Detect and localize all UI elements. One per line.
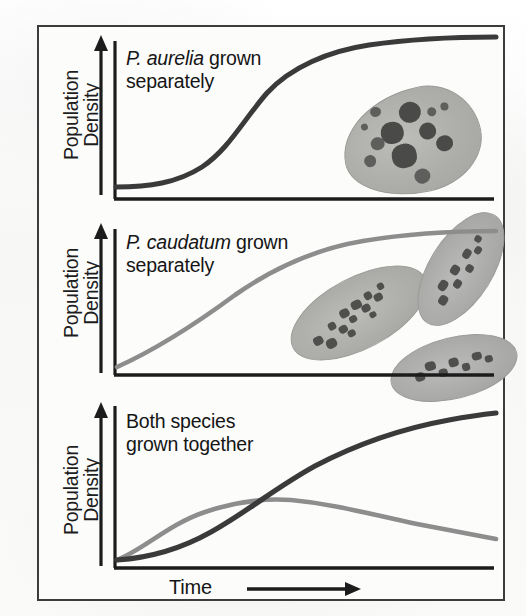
x-axis-label: Time: [169, 576, 212, 599]
curve-p-aurelia-alone: [116, 37, 496, 187]
y-axis-arrow-head: [94, 35, 108, 51]
panel-p-aurelia: Population Density P. aurelia grown sepa…: [39, 27, 507, 215]
panel-2-plot: [39, 215, 507, 390]
panel-3-plot: [39, 390, 507, 603]
figure-border: Population Density P. aurelia grown sepa…: [37, 25, 505, 601]
x-axis-arrow: [247, 582, 361, 596]
curve-p-aurelia-together: [117, 413, 496, 560]
y-axis-arrow-head: [94, 402, 108, 418]
panel-1-plot: [39, 27, 507, 215]
panel-both-species: Population Density Both species grown to…: [39, 390, 507, 603]
y-axis-arrow-head: [94, 223, 108, 239]
curve-p-caudatum-alone: [117, 231, 496, 367]
figure-root: Population Density P. aurelia grown sepa…: [0, 0, 526, 616]
panel-p-caudatum: Population Density P. caudatum grown sep…: [39, 215, 507, 390]
